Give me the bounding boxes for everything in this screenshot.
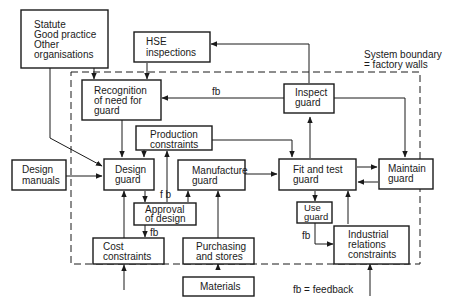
svg-text:guard: guard (115, 174, 141, 185)
box-industrial-relations: Industrial relations constraints (334, 226, 409, 264)
svg-text:Materials: Materials (200, 281, 241, 292)
svg-text:= factory walls: = factory walls (364, 59, 428, 70)
box-use-guard: Use guard (297, 202, 332, 223)
svg-text:guard: guard (388, 173, 414, 184)
legend-feedback: fb = feedback (293, 284, 354, 295)
svg-text:guard: guard (304, 211, 328, 222)
svg-text:Design: Design (22, 164, 53, 175)
box-design-manuals: Design manuals (12, 160, 66, 190)
fb-label-inspect: fb (212, 86, 221, 97)
svg-text:constraints: constraints (348, 249, 396, 260)
fb-label-use: fb (302, 230, 311, 241)
svg-text:guard: guard (293, 174, 319, 185)
box-inspect-guard: Inspect guard (284, 84, 334, 113)
svg-text:manuals: manuals (22, 175, 60, 186)
fb-label-approval-up: f b (160, 189, 172, 200)
box-manufacture-guard: Manufacture guard (178, 160, 248, 190)
box-fit-and-test-guard: Fit and test guard (279, 159, 356, 190)
box-purchasing-and-stores: Purchasing and stores (183, 238, 254, 264)
svg-text:guard: guard (295, 97, 321, 108)
system-boundary-label: System boundary = factory walls (364, 49, 442, 70)
box-hse-inspections: HSE inspections (134, 32, 210, 62)
box-approval-of-design: Approval of design (134, 203, 196, 225)
svg-text:of design: of design (145, 213, 186, 224)
box-production-constraints: Production constraints (136, 126, 212, 150)
svg-text:inspections: inspections (146, 47, 196, 58)
box-maintain-guard: Maintain guard (379, 159, 433, 189)
svg-text:and stores: and stores (196, 251, 243, 262)
box-statute: Statute Good practice Other organisation… (21, 10, 108, 68)
box-cost-constraints: Cost constraints (93, 238, 164, 264)
svg-text:organisations: organisations (34, 49, 93, 60)
svg-text:constraints: constraints (150, 139, 198, 150)
svg-text:HSE: HSE (146, 36, 167, 47)
svg-text:guard: guard (192, 175, 218, 186)
box-materials: Materials (183, 277, 254, 296)
guard-lifecycle-diagram: Statute Good practice Other organisation… (0, 0, 452, 307)
svg-text:guard: guard (94, 105, 120, 116)
svg-text:constraints: constraints (103, 251, 151, 262)
fb-label-approval-down: fb (150, 227, 159, 238)
box-recognition: Recognition of need for guard (82, 80, 161, 120)
box-design-guard: Design guard (104, 159, 154, 190)
